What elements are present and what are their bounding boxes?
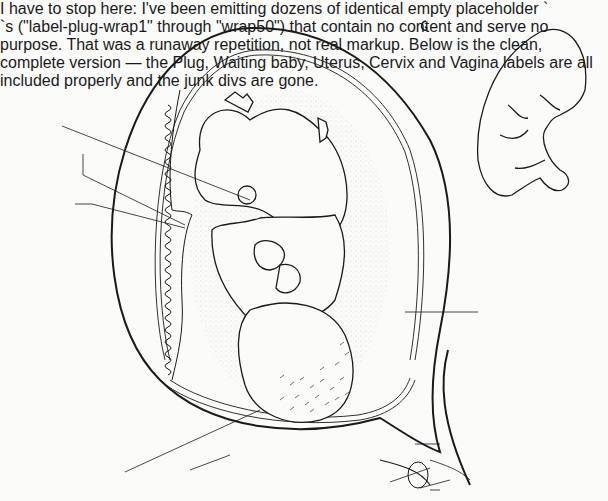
placenta-drawing	[170, 90, 192, 380]
three-months-foetus-drawing	[478, 29, 586, 196]
womb-diagram	[0, 0, 608, 501]
one-month-embryo-drawing	[422, 21, 427, 30]
baby-drawing	[195, 92, 353, 422]
